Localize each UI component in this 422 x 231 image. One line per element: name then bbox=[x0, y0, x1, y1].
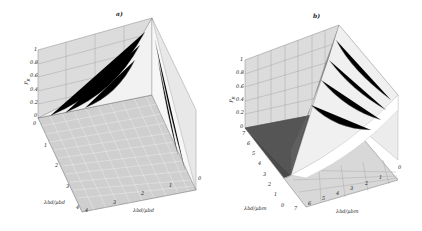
panel-b-left-tick: 4 bbox=[258, 161, 261, 166]
surface-plot-a bbox=[0, 0, 211, 231]
panel-a-right-tick: 1 bbox=[169, 183, 172, 188]
panel-a-z-tick: 0 bbox=[34, 113, 37, 118]
panel-a-right-tick: 0 bbox=[198, 176, 201, 181]
panel-b-z-tick: 1 bbox=[240, 57, 243, 62]
panel-a-z-tick: 0.6 bbox=[30, 73, 38, 78]
panel-b-title: b) bbox=[313, 13, 320, 19]
panel-b-right-tick: 3 bbox=[350, 186, 353, 191]
panel-a-z-tick: 0.4 bbox=[30, 87, 38, 92]
panel-a-z-tick: 1 bbox=[34, 47, 37, 52]
panel-b-left-tick: 7 bbox=[242, 131, 245, 136]
panel-b-z-tick: 0.8 bbox=[236, 70, 244, 75]
panel-b-right-axis-label: λbd/μbm bbox=[336, 209, 358, 214]
panel-b-left-tick: 5 bbox=[252, 151, 255, 156]
panel-b-right-tick: 1 bbox=[379, 175, 382, 180]
chart-panel-b: b) PR 1 0.8 0.6 0.4 0.2 0 7 6 5 4 3 2 1 … bbox=[211, 0, 422, 231]
panel-a-left-tick: 2 bbox=[55, 163, 58, 168]
panel-b-right-tick: 6 bbox=[308, 201, 311, 206]
chart-panel-a: a) PR 1 0.8 0.6 0.4 0.2 0 0 1 2 3 4 λbd/… bbox=[0, 0, 211, 231]
panel-b-z-tick: 0 bbox=[240, 124, 243, 129]
panel-a-right-tick: 4 bbox=[85, 208, 88, 213]
panel-a-left-tick: 0 bbox=[33, 121, 36, 126]
panel-a-right-tick: 2 bbox=[141, 191, 144, 196]
panel-a-right-axis-label: λbd/μbd bbox=[133, 208, 154, 213]
panel-b-z-tick: 0.4 bbox=[236, 97, 244, 102]
panel-b-left-tick: 3 bbox=[263, 172, 266, 177]
panel-b-left-tick: 1 bbox=[274, 192, 277, 197]
panel-a-z-axis-label: PR bbox=[24, 78, 31, 85]
panel-a-left-tick: 4 bbox=[76, 205, 79, 210]
panel-b-left-tick: 0 bbox=[281, 203, 284, 208]
panel-a-z-tick: 0.2 bbox=[30, 100, 38, 105]
panel-a-z-tick: 0.8 bbox=[30, 60, 38, 65]
panel-b-z-tick: 0.6 bbox=[236, 84, 244, 89]
panel-b-left-tick: 6 bbox=[247, 141, 250, 146]
panel-b-z-axis-label: PR bbox=[229, 96, 236, 103]
panel-b-left-axis-label: λbd/μbm bbox=[244, 206, 266, 211]
panel-b-right-tick: 5 bbox=[322, 196, 325, 201]
panel-a-left-axis-label: λbd/μbd bbox=[44, 200, 65, 205]
panel-b-left-tick: 2 bbox=[268, 182, 271, 187]
panel-b-right-tick: 7 bbox=[294, 206, 297, 211]
surface-plot-b bbox=[211, 0, 422, 231]
panel-a-title: a) bbox=[116, 11, 123, 17]
panel-b-right-tick: 2 bbox=[365, 181, 368, 186]
panel-a-right-tick: 3 bbox=[113, 200, 116, 205]
panel-b-z-tick: 0.2 bbox=[236, 110, 244, 115]
panel-b-right-tick: 0 bbox=[398, 165, 401, 170]
panel-a-left-tick: 1 bbox=[44, 143, 47, 148]
panel-b-right-tick: 4 bbox=[336, 191, 339, 196]
panel-a-left-tick: 3 bbox=[66, 184, 69, 189]
